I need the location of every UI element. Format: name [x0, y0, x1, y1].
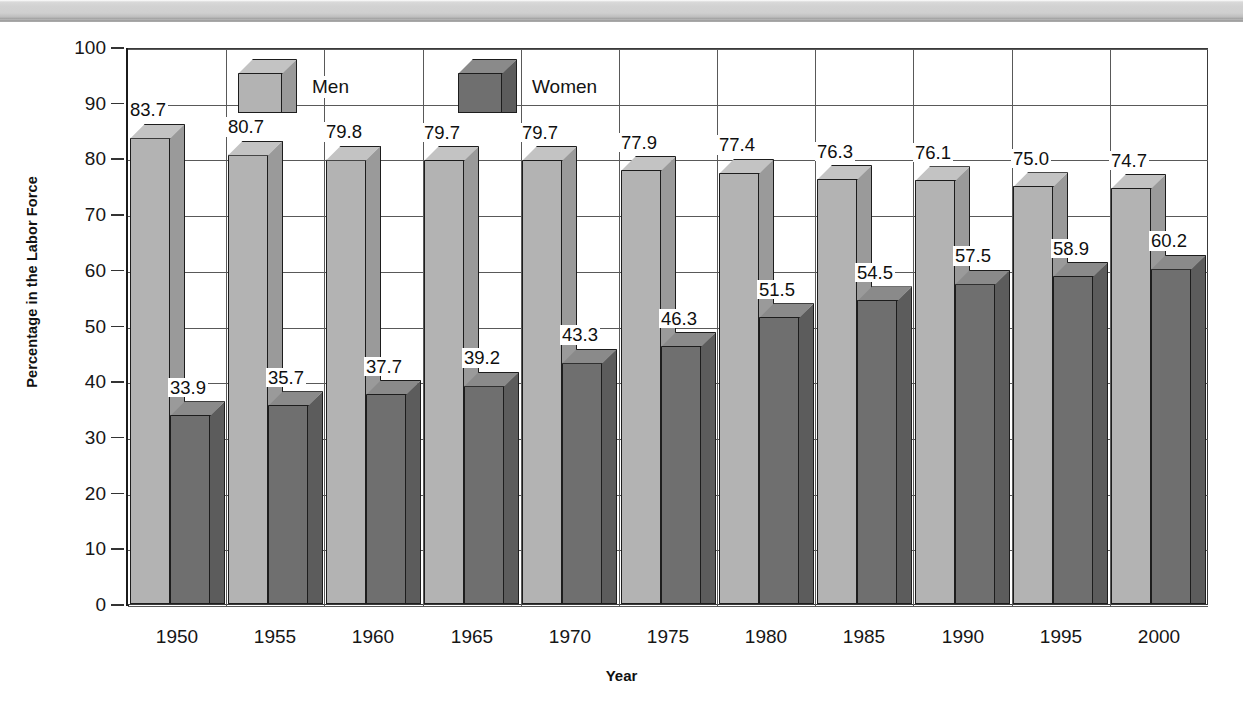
- bar-side-face: [210, 401, 225, 604]
- y-tick-label: 30: [60, 427, 106, 449]
- y-tick-label: 40: [60, 371, 106, 393]
- bar-front-face: [719, 173, 759, 604]
- bar-side-face: [701, 332, 716, 604]
- bar-value-label-men-2000: 74.7: [1109, 151, 1149, 170]
- gridline-v-1980: [717, 49, 718, 606]
- bar-side-face: [995, 270, 1010, 604]
- page-top-band: [0, 0, 1243, 22]
- y-tick-label: 80: [60, 148, 106, 170]
- bar-side-face: [1191, 255, 1206, 604]
- bar-value-label-women-1965: 39.2: [462, 348, 502, 367]
- bar-value-label-men-1960: 79.8: [324, 122, 364, 141]
- bar-value-label-men-1950: 83.7: [128, 100, 168, 119]
- bar-women-1955: [268, 405, 308, 604]
- bar-men-1990: [915, 180, 955, 604]
- y-tick-label: 10: [60, 538, 106, 560]
- bar-front-face: [1111, 188, 1151, 604]
- bar-men-1995: [1013, 186, 1053, 604]
- y-tick-mark: [111, 158, 124, 160]
- y-tick-mark: [111, 270, 124, 272]
- bar-men-1955: [228, 155, 268, 604]
- bar-side-face: [897, 286, 912, 604]
- gridline-h-100: [128, 49, 1208, 50]
- bar-women-1990: [955, 284, 995, 604]
- bar-side-face: [308, 391, 323, 604]
- bar-women-1965: [464, 386, 504, 604]
- bar-front-face: [522, 160, 562, 604]
- bar-side-face: [602, 349, 617, 604]
- bar-front-face: [130, 138, 170, 604]
- legend-label-women: Women: [528, 76, 601, 98]
- y-tick-mark: [111, 47, 124, 49]
- bar-front-face: [661, 346, 701, 604]
- bar-front-face: [424, 160, 464, 604]
- y-tick-mark: [111, 214, 124, 216]
- y-tick-mark: [111, 103, 124, 105]
- bar-value-label-women-1970: 43.3: [560, 325, 600, 344]
- gridline-h-0: [128, 606, 1208, 607]
- bar-value-label-women-1960: 37.7: [364, 357, 404, 376]
- y-tick-label: 50: [60, 316, 106, 338]
- bar-front-face: [170, 415, 210, 604]
- legend-cube-front-face: [238, 73, 282, 113]
- y-tick-mark: [111, 493, 124, 495]
- bar-front-face: [268, 405, 308, 604]
- bar-front-face: [857, 300, 897, 604]
- bar-value-label-women-2000: 60.2: [1149, 231, 1189, 250]
- bar-value-label-men-1980: 77.4: [717, 135, 757, 154]
- bar-women-1985: [857, 300, 897, 604]
- y-tick-label: 70: [60, 204, 106, 226]
- legend-cube-front-face: [458, 73, 502, 113]
- bar-value-label-men-1995: 75.0: [1011, 149, 1051, 168]
- y-tick-label: 0: [60, 594, 106, 616]
- bar-men-1985: [817, 179, 857, 604]
- bar-women-1975: [661, 346, 701, 604]
- y-tick-label: 20: [60, 483, 106, 505]
- y-tick-label: 100: [60, 37, 106, 59]
- bar-front-face: [1053, 276, 1093, 604]
- bar-front-face: [915, 180, 955, 604]
- bar-front-face: [562, 363, 602, 604]
- bar-value-label-men-1990: 76.1: [913, 143, 953, 162]
- y-tick-mark: [111, 548, 124, 550]
- bar-men-1960: [326, 160, 366, 604]
- y-tick-mark: [111, 604, 124, 606]
- bar-side-face: [799, 303, 814, 604]
- bar-value-label-men-1975: 77.9: [619, 133, 659, 152]
- x-tick-label-2000: 2000: [1099, 626, 1219, 648]
- bar-women-1980: [759, 317, 799, 604]
- bar-front-face: [621, 170, 661, 604]
- bar-value-label-women-1985: 54.5: [855, 263, 895, 282]
- bar-value-label-women-1975: 46.3: [659, 309, 699, 328]
- bar-front-face: [228, 155, 268, 604]
- bar-value-label-men-1955: 80.7: [226, 117, 266, 136]
- legend-label-men: Men: [308, 76, 353, 98]
- bar-value-label-women-1955: 35.7: [266, 368, 306, 387]
- bar-men-2000: [1111, 188, 1151, 604]
- legend-swatch-dark-gray-cube-icon: [458, 73, 502, 113]
- bar-front-face: [759, 317, 799, 604]
- bar-front-face: [1151, 269, 1191, 604]
- bar-front-face: [326, 160, 366, 604]
- plot-area: 83.780.779.879.779.777.977.476.376.175.0…: [128, 48, 1208, 605]
- x-axis-title: Year: [0, 667, 1243, 684]
- bar-side-face: [504, 372, 519, 604]
- y-axis-title: Percentage in the Labor Force: [24, 22, 40, 542]
- bar-front-face: [366, 394, 406, 604]
- bar-women-1995: [1053, 276, 1093, 604]
- y-tick-mark: [111, 326, 124, 328]
- bar-value-label-women-1995: 58.9: [1051, 239, 1091, 258]
- gridline-v-1990: [913, 49, 914, 606]
- chart-figure: Percentage in the Labor Force 0102030405…: [0, 22, 1243, 717]
- y-tick-label: 60: [60, 260, 106, 282]
- bar-men-1950: [130, 138, 170, 604]
- bar-front-face: [817, 179, 857, 604]
- bar-value-label-men-1965: 79.7: [422, 123, 462, 142]
- bar-value-label-women-1950: 33.9: [168, 378, 208, 397]
- legend-swatch-light-gray-cube-icon: [238, 73, 282, 113]
- bar-value-label-men-1985: 76.3: [815, 142, 855, 161]
- y-tick-mark: [111, 381, 124, 383]
- bar-front-face: [1013, 186, 1053, 604]
- bar-men-1970: [522, 160, 562, 604]
- gridline-v-1985: [815, 49, 816, 606]
